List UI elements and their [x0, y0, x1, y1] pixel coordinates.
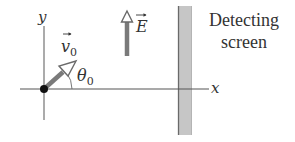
vector-accent-v-icon — [63, 32, 72, 35]
screen-label-line2: screen — [196, 31, 292, 53]
electric-field-arrow — [122, 11, 133, 56]
origin-dot — [40, 85, 48, 93]
screen-label: Detecting screen — [196, 9, 292, 53]
screen-label-line1: Detecting — [196, 9, 292, 31]
diagram-canvas: y x v0 θ0 E Detecting screen — [0, 0, 295, 142]
y-axis-label: y — [37, 8, 47, 26]
velocity-label: v0 — [61, 37, 77, 59]
velocity-arrow — [44, 61, 76, 89]
detecting-screen — [178, 6, 192, 135]
x-axis-label: x — [211, 79, 220, 97]
field-label: E — [135, 17, 148, 36]
angle-label: θ0 — [77, 66, 94, 88]
